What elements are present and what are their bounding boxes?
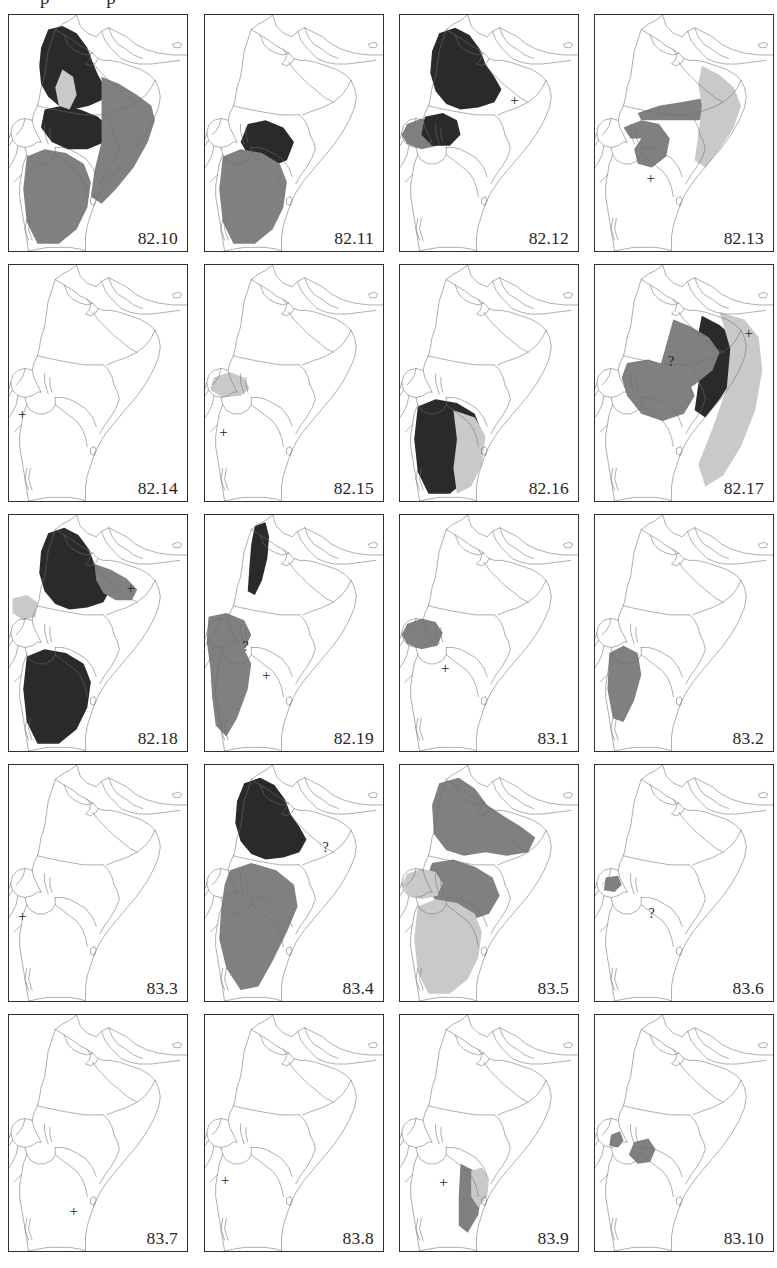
border-line	[91, 947, 96, 956]
border-line	[446, 15, 467, 30]
border-line	[289, 62, 334, 102]
border-line	[282, 1049, 294, 1065]
panel-label: 83.2	[733, 730, 764, 748]
border-line	[251, 1148, 292, 1177]
panel-label: 82.10	[138, 230, 178, 248]
border-line	[50, 378, 52, 393]
border-line	[695, 528, 729, 559]
border-line	[595, 390, 599, 395]
border-line	[94, 1080, 160, 1203]
border-line	[611, 718, 615, 740]
region-dark	[248, 522, 269, 595]
border-line	[436, 1124, 440, 1144]
border-line	[225, 468, 229, 490]
border-line	[93, 812, 138, 852]
border-line	[595, 640, 599, 645]
border-line	[672, 204, 681, 251]
border-line	[641, 655, 673, 697]
border-line	[298, 1031, 376, 1064]
border-line	[45, 1124, 49, 1144]
border-line	[477, 704, 486, 751]
border-line	[441, 378, 443, 393]
border-line	[29, 1218, 33, 1240]
map-graphic	[205, 765, 383, 1001]
border-line	[299, 115, 310, 135]
border-line	[679, 812, 724, 852]
border-line	[296, 385, 316, 434]
border-line	[55, 765, 76, 780]
border-line	[37, 1106, 103, 1115]
border-line	[595, 890, 599, 895]
border-line	[94, 330, 160, 453]
border-line	[611, 468, 615, 490]
border-line	[400, 1133, 402, 1138]
border-line	[672, 799, 684, 815]
border-line	[618, 106, 627, 142]
border-line	[287, 447, 292, 456]
border-line	[615, 747, 672, 751]
border-line	[296, 885, 316, 934]
border-line	[91, 697, 96, 706]
border-line	[37, 1030, 55, 1106]
border-line	[37, 856, 103, 865]
map-graphic	[400, 765, 578, 1001]
border-line	[9, 133, 11, 138]
border-line	[494, 115, 505, 135]
border-line	[287, 197, 292, 206]
border-line	[688, 31, 766, 64]
border-line	[672, 299, 684, 315]
map-panel: ?83.6	[594, 764, 774, 1002]
border-line	[369, 42, 378, 47]
border-line	[225, 1218, 229, 1240]
border-line	[273, 15, 383, 55]
border-line	[221, 1148, 251, 1164]
border-line	[251, 648, 292, 677]
map-panel: 82.11	[204, 14, 384, 252]
border-line	[289, 553, 351, 580]
region-light	[414, 899, 482, 993]
border-line	[615, 997, 672, 1001]
border-line	[400, 146, 409, 168]
map-graphic	[595, 1015, 773, 1251]
border-line	[305, 778, 339, 809]
border-line	[491, 635, 511, 684]
border-line	[86, 799, 98, 815]
border-line	[615, 968, 619, 990]
border-line	[25, 398, 55, 414]
border-line	[32, 106, 41, 142]
border-line	[615, 718, 619, 740]
border-line	[93, 303, 155, 330]
border-line	[100, 635, 120, 684]
border-line	[173, 1042, 182, 1047]
border-line	[221, 398, 251, 414]
border-line	[416, 1218, 420, 1240]
border-line	[641, 1015, 662, 1030]
border-line	[100, 385, 120, 434]
border-line	[273, 1015, 383, 1055]
border-line	[282, 954, 291, 1001]
border-line	[428, 280, 446, 356]
panel-label: 83.3	[147, 980, 178, 998]
border-line	[641, 905, 673, 947]
border-line	[173, 42, 182, 47]
border-line	[500, 778, 534, 809]
border-line	[25, 968, 29, 990]
border-line	[50, 628, 52, 643]
border-line	[611, 218, 615, 240]
map-graphic	[205, 15, 383, 251]
border-line	[77, 515, 187, 555]
border-line	[205, 133, 207, 138]
border-line	[251, 1015, 272, 1030]
border-line	[241, 1124, 245, 1144]
border-line	[205, 883, 207, 888]
border-line	[225, 247, 282, 251]
border-line	[677, 697, 682, 706]
shaded-regions	[414, 399, 485, 493]
map-panel: +82.13	[594, 14, 774, 252]
region-medium	[604, 876, 622, 892]
border-line	[251, 655, 283, 697]
border-line	[677, 947, 682, 956]
border-line	[679, 553, 741, 580]
border-line	[446, 265, 467, 280]
border-line	[9, 883, 11, 888]
